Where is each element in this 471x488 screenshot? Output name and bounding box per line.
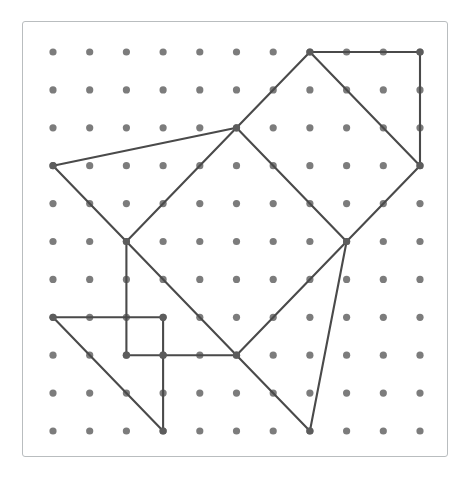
grid-dot	[380, 314, 387, 321]
grid-dot	[233, 276, 240, 283]
segment-square-left-side	[126, 128, 236, 242]
grid-dot	[86, 276, 93, 283]
segment-square-top-left-side	[237, 52, 310, 128]
grid-dot	[416, 352, 423, 359]
segment-square-bottom-left-side	[126, 242, 236, 356]
grid-dot	[86, 390, 93, 397]
segment-square-right-lower-side	[347, 166, 420, 242]
grid-dot	[270, 124, 277, 131]
dot-grid-layer	[49, 48, 423, 434]
grid-dot	[49, 276, 56, 283]
grid-dot	[233, 427, 240, 434]
grid-dot	[233, 238, 240, 245]
grid-dot	[306, 314, 313, 321]
grid-dot	[343, 124, 350, 131]
vertex-dot	[233, 124, 240, 131]
vertex-dot	[160, 314, 167, 321]
grid-dot	[160, 86, 167, 93]
segment-long-left-upper	[53, 128, 237, 166]
grid-dot	[196, 200, 203, 207]
grid-dot	[306, 162, 313, 169]
grid-dot	[416, 276, 423, 283]
grid-dot	[306, 238, 313, 245]
grid-dot	[306, 352, 313, 359]
grid-dot	[196, 390, 203, 397]
grid-dot	[380, 162, 387, 169]
grid-dot	[160, 162, 167, 169]
grid-dot	[380, 390, 387, 397]
grid-dot	[196, 238, 203, 245]
segment-tail-left	[237, 355, 310, 431]
grid-dot	[233, 162, 240, 169]
grid-dot	[86, 86, 93, 93]
figure-canvas	[0, 0, 471, 488]
grid-dot	[380, 86, 387, 93]
grid-dot	[123, 48, 130, 55]
grid-dot	[86, 238, 93, 245]
grid-dot	[270, 352, 277, 359]
grid-dot	[270, 238, 277, 245]
segment-square-bottom-right-side	[237, 242, 347, 356]
vertex-dot	[123, 352, 130, 359]
vertex-dot	[160, 427, 167, 434]
vertex-dot	[416, 162, 423, 169]
segment-tail-right	[310, 242, 347, 432]
grid-dot	[233, 86, 240, 93]
grid-dot	[270, 48, 277, 55]
grid-dot	[416, 314, 423, 321]
grid-dot	[343, 276, 350, 283]
grid-dot	[343, 314, 350, 321]
grid-dot	[196, 124, 203, 131]
grid-dot	[49, 48, 56, 55]
grid-dot	[123, 86, 130, 93]
grid-dot	[123, 200, 130, 207]
geoboard-svg	[0, 0, 471, 488]
grid-dot	[270, 427, 277, 434]
segment-square-upper-diagonal	[237, 128, 347, 242]
grid-dot	[416, 390, 423, 397]
grid-dot	[416, 427, 423, 434]
grid-dot	[380, 238, 387, 245]
grid-dot	[233, 200, 240, 207]
grid-dot	[86, 162, 93, 169]
segment-lower-left-diagonal	[53, 317, 163, 431]
grid-dot	[196, 427, 203, 434]
grid-dot	[416, 200, 423, 207]
grid-dot	[49, 200, 56, 207]
grid-dot	[270, 200, 277, 207]
grid-dot	[86, 48, 93, 55]
vertex-dot	[160, 352, 167, 359]
grid-dot	[233, 390, 240, 397]
grid-dot	[49, 390, 56, 397]
grid-dot	[416, 238, 423, 245]
grid-dot	[380, 352, 387, 359]
grid-dot	[380, 276, 387, 283]
grid-dot	[196, 86, 203, 93]
grid-dot	[86, 427, 93, 434]
segment-left-lower	[53, 166, 126, 242]
vertex-dot	[123, 238, 130, 245]
segment-square-top-right-side	[310, 52, 420, 166]
grid-dot	[49, 86, 56, 93]
grid-dot	[196, 48, 203, 55]
grid-dot	[123, 162, 130, 169]
grid-dot	[343, 352, 350, 359]
grid-dot	[86, 124, 93, 131]
grid-dot	[49, 352, 56, 359]
grid-dot	[233, 314, 240, 321]
vertex-dot	[49, 162, 56, 169]
vertex-dot	[416, 48, 423, 55]
vertex-dot	[233, 352, 240, 359]
grid-dot	[270, 276, 277, 283]
grid-dot	[306, 86, 313, 93]
vertex-dot	[343, 238, 350, 245]
grid-dot	[49, 238, 56, 245]
grid-dot	[343, 427, 350, 434]
grid-dot	[233, 48, 240, 55]
grid-dot	[123, 427, 130, 434]
grid-dot	[343, 162, 350, 169]
grid-dot	[380, 427, 387, 434]
grid-dot	[160, 238, 167, 245]
grid-dot	[160, 124, 167, 131]
grid-dot	[49, 427, 56, 434]
